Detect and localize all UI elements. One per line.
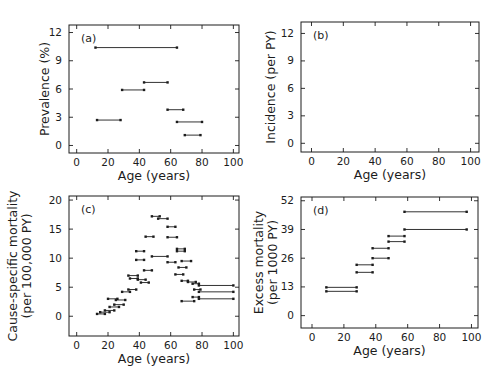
x-tick-label: 60 — [401, 331, 414, 343]
y-tick-label: 12 — [49, 26, 62, 38]
x-tick-label: 80 — [432, 155, 445, 167]
panel-d-excess-mortality: 020406080100013263952Age (years)Excess m… — [251, 188, 503, 376]
y-tick-label: 9 — [287, 54, 294, 66]
x-tick-label: 60 — [400, 155, 413, 167]
x-tick-label: 80 — [433, 331, 446, 343]
x-tick-label: 0 — [73, 156, 80, 168]
y-tick-label: 6 — [287, 82, 294, 94]
y-axis-label: Incidence (per PY) — [263, 30, 278, 143]
subplot-a: 020406080100036912Age (years)Prevalence … — [0, 0, 251, 188]
x-tick-label: 40 — [369, 331, 382, 343]
x-tick-label: 20 — [101, 156, 114, 168]
y-tick-label: 6 — [55, 83, 62, 95]
subplot-d: 020406080100013263952Age (years)Excess m… — [251, 188, 503, 376]
y-axis-label: Prevalence (%) — [37, 42, 52, 136]
x-tick-label: 100 — [461, 331, 481, 343]
y-tick-label: 0 — [287, 309, 294, 321]
x-axis-label: Age (years) — [354, 167, 426, 182]
x-tick-label: 80 — [195, 339, 208, 351]
four-panel-epi-rates-figure: 020406080100036912Age (years)Prevalence … — [0, 0, 503, 376]
x-tick-label: 20 — [337, 155, 350, 167]
x-tick-label: 60 — [164, 339, 177, 351]
x-tick-label: 0 — [73, 339, 80, 351]
y-tick-label: 0 — [55, 139, 62, 151]
panel-tag: (c) — [81, 203, 96, 216]
x-axis-label: Age (years) — [118, 351, 190, 366]
x-tick-label: 20 — [101, 339, 114, 351]
x-tick-label: 40 — [133, 156, 146, 168]
y-tick-label: 20 — [49, 194, 62, 206]
panel-c-cause-specific-mortality: 02040608010005101520Age (years)Cause-spe… — [0, 188, 251, 376]
y-tick-label: 9 — [55, 54, 62, 66]
x-tick-label: 100 — [223, 339, 243, 351]
y-tick-label: 0 — [55, 310, 62, 322]
panel-tag: (d) — [313, 204, 329, 217]
panel-a-prevalence: 020406080100036912Age (years)Prevalence … — [0, 0, 251, 188]
y-tick-label: 52 — [281, 194, 294, 206]
y-axis-label: Excess mortality — [251, 210, 266, 314]
y-tick-label: 26 — [281, 252, 295, 264]
x-tick-label: 100 — [223, 156, 243, 168]
y-tick-label: 3 — [55, 111, 62, 123]
x-tick-label: 40 — [133, 339, 146, 351]
y-axis-label: (per 1000 PY) — [265, 220, 280, 305]
x-axis-label: Age (years) — [118, 168, 190, 183]
plot-frame — [69, 196, 239, 336]
y-tick-label: 12 — [281, 27, 294, 39]
x-tick-label: 100 — [461, 155, 481, 167]
x-axis-label: Age (years) — [353, 343, 425, 358]
y-tick-label: 5 — [55, 281, 62, 293]
x-tick-label: 40 — [368, 155, 381, 167]
x-tick-label: 20 — [337, 331, 350, 343]
y-axis-label: (per 100,000 PY) — [19, 213, 34, 318]
y-axis-label: Cause-specific mortality — [5, 190, 20, 342]
x-tick-label: 0 — [309, 331, 316, 343]
y-tick-label: 3 — [287, 109, 294, 121]
x-tick-label: 60 — [164, 156, 177, 168]
y-tick-label: 15 — [49, 223, 62, 235]
y-tick-label: 10 — [49, 252, 62, 264]
x-tick-label: 0 — [308, 155, 315, 167]
panel-tag: (a) — [81, 32, 96, 45]
panel-b-incidence: 020406080100036912Age (years)Incidence (… — [251, 0, 503, 188]
y-tick-label: 13 — [281, 280, 294, 292]
subplot-c: 02040608010005101520Age (years)Cause-spe… — [0, 188, 251, 376]
x-tick-label: 80 — [195, 156, 208, 168]
y-tick-label: 0 — [287, 137, 294, 149]
panel-tag: (b) — [313, 29, 329, 42]
subplot-b: 020406080100036912Age (years)Incidence (… — [251, 0, 503, 188]
y-tick-label: 39 — [281, 223, 294, 235]
